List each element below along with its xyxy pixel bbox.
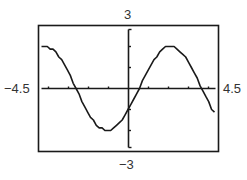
axes [42,30,216,148]
graph-plot [0,0,247,180]
